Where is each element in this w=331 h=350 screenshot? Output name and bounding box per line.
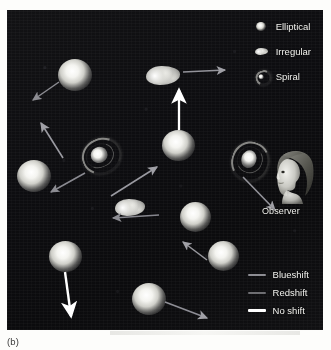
legend-item-redshift: Redshift: [248, 287, 309, 298]
legend-label-elliptical: Elliptical: [276, 21, 311, 32]
figure-container: Observer Elliptical Irregular: [0, 0, 331, 350]
legend-label-no-shift: No shift: [273, 305, 305, 316]
legend-item-irregular: Irregular: [255, 45, 311, 57]
page-scan-artifact: [110, 331, 300, 335]
shift-legend: Blueshift Redshift No shift: [248, 269, 309, 316]
legend-label-irregular: Irregular: [276, 46, 311, 57]
redshift-line-icon: [248, 292, 266, 294]
legend-label-redshift: Redshift: [273, 287, 308, 298]
legend-item-elliptical: Elliptical: [255, 20, 311, 32]
observer-label: Observer: [262, 206, 300, 216]
sky-panel: Observer Elliptical Irregular: [7, 10, 323, 330]
legend-label-spiral: Spiral: [276, 71, 300, 82]
blueshift-line-icon: [248, 274, 266, 276]
spiral-galaxy-icon: [255, 70, 268, 83]
elliptical-galaxy-icon: [255, 20, 268, 33]
legend-item-spiral: Spiral: [255, 70, 311, 82]
legend-item-blueshift: Blueshift: [248, 269, 309, 280]
irregular-galaxy-icon: [255, 45, 268, 58]
legend-label-blueshift: Blueshift: [273, 269, 309, 280]
figure-caption: (b): [7, 336, 19, 347]
legend-item-no-shift: No shift: [248, 305, 309, 316]
no-shift-line-icon: [248, 309, 266, 312]
galaxy-type-legend: Elliptical Irregular Spiral: [255, 20, 311, 82]
